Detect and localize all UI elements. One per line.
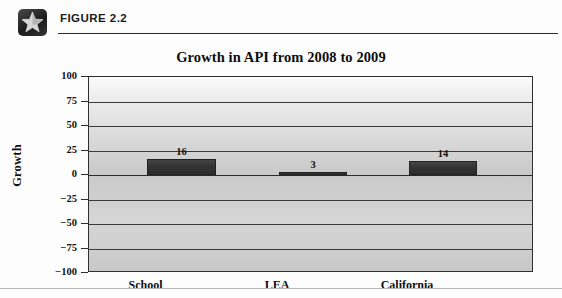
- y-tick: [81, 248, 88, 249]
- figure-label: FIGURE 2.2: [60, 12, 127, 24]
- bar-value-california: 14: [409, 148, 477, 159]
- y-tick: [81, 223, 88, 224]
- y-tick-label: 0: [33, 168, 77, 179]
- plot-area: 16 3 14: [88, 76, 533, 272]
- gridline: [89, 249, 532, 250]
- y-tick: [81, 125, 88, 126]
- y-tick: [81, 101, 88, 102]
- figure-page: FIGURE 2.2 Growth in API from 2008 to 20…: [0, 0, 562, 298]
- y-tick-label: 75: [33, 95, 77, 106]
- y-tick: [81, 272, 88, 273]
- star-icon: [18, 9, 47, 36]
- y-tick: [81, 150, 88, 151]
- y-tick-label: −75: [33, 242, 77, 253]
- figure-divider: [58, 33, 558, 34]
- y-tick: [81, 174, 88, 175]
- gridline: [89, 102, 532, 103]
- y-tick-label: 25: [33, 144, 77, 155]
- page-divider: [0, 288, 562, 289]
- bar-california[interactable]: [409, 161, 477, 175]
- bar-value-lea: 3: [279, 159, 347, 170]
- bar-value-school: 16: [147, 146, 216, 157]
- x-tick-label-california: California: [373, 278, 441, 293]
- gridline: [89, 224, 532, 225]
- bar-lea[interactable]: [279, 172, 347, 175]
- bar-chart: Growth in API from 2008 to 2009 Growth 1…: [0, 40, 562, 298]
- x-tick-label-school: School: [111, 278, 180, 293]
- y-tick: [81, 199, 88, 200]
- y-tick: [81, 76, 88, 77]
- gridline: [89, 200, 532, 201]
- y-tick-label: −25: [33, 193, 77, 204]
- y-tick-label: −50: [33, 217, 77, 228]
- gridline-zero: [89, 175, 532, 176]
- y-tick-label: 100: [33, 70, 77, 81]
- bar-school[interactable]: [147, 159, 216, 175]
- x-tick-label-lea: LEA: [243, 278, 311, 293]
- y-tick-label: −100: [33, 266, 77, 277]
- gridline: [89, 126, 532, 127]
- y-tick-label: 50: [33, 119, 77, 130]
- figure-header: FIGURE 2.2: [0, 0, 562, 40]
